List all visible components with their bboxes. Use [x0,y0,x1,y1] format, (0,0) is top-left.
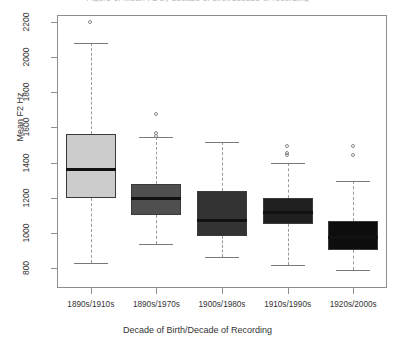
median-line [197,219,247,222]
interquartile-box [197,191,247,237]
lower-whisker-line [222,236,223,257]
interquartile-box [66,134,116,198]
x-axis-tick-label: 1890s/1970s [120,300,192,309]
y-axis-tick-mark [51,268,57,269]
lower-whisker-line [91,198,92,263]
chart-title: Figure 3. Mean F2 by decade of birth/dec… [0,0,395,2]
lower-whisker-cap [139,244,173,245]
x-axis-tick-label: 1900s/1980s [186,300,258,309]
upper-whisker-cap [271,163,305,164]
x-axis-tick-mark [288,288,289,294]
upper-whisker-line [353,181,354,221]
x-axis-tick-label: 1910s/1990s [252,300,324,309]
y-axis-tick-label: 1800 [21,72,31,112]
y-axis-tick-label: 2000 [21,37,31,77]
outlier-point [351,153,355,157]
x-axis-tick-mark [222,288,223,294]
x-axis-tick-mark [353,288,354,294]
upper-whisker-cap [205,142,239,143]
y-axis-tick-mark [51,92,57,93]
upper-whisker-line [156,137,157,184]
median-line [263,211,313,214]
lower-whisker-line [156,215,157,244]
lower-whisker-cap [74,263,108,264]
x-axis-tick-mark [91,288,92,294]
lower-whisker-line [353,250,354,269]
outlier-point [154,134,158,138]
upper-whisker-line [222,142,223,190]
y-axis-tick-mark [51,57,57,58]
outlier-point [351,144,355,148]
x-axis-tick-mark [156,288,157,294]
x-axis-tick-label: 1920s/2000s [317,300,389,309]
median-line [328,236,378,239]
y-axis-tick-label: 1000 [21,213,31,253]
lower-whisker-cap [336,270,370,271]
y-axis-tick-mark [51,127,57,128]
y-axis-tick-mark [51,163,57,164]
y-axis-tick-mark [51,198,57,199]
lower-whisker-line [288,224,289,265]
y-axis-tick-label: 1400 [21,143,31,183]
upper-whisker-line [91,43,92,133]
boxplot-chart: Figure 3. Mean F2 by decade of birth/dec… [0,0,395,346]
y-axis-tick-mark [51,233,57,234]
y-axis-tick-label: 1600 [21,107,31,147]
median-line [131,197,181,200]
upper-whisker-line [288,163,289,198]
y-axis-tick-label: 1200 [21,178,31,218]
y-axis-tick-label: 2200 [21,2,31,42]
median-line [66,168,116,171]
outlier-point [154,112,158,116]
y-axis-tick-label: 800 [21,248,31,288]
upper-whisker-cap [74,43,108,44]
upper-whisker-cap [336,181,370,182]
y-axis-tick-mark [51,22,57,23]
x-axis-tick-label: 1890s/1910s [55,300,127,309]
x-axis-title: Decade of Birth/Decade of Recording [0,325,395,335]
lower-whisker-cap [205,257,239,258]
lower-whisker-cap [271,265,305,266]
